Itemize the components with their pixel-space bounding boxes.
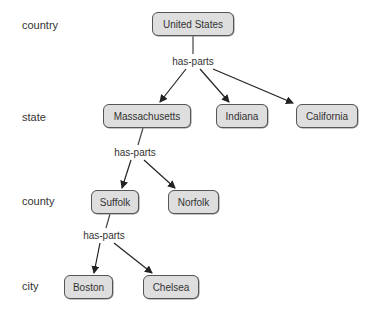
edges-layer [0, 0, 374, 312]
node-united-states: United States [152, 12, 234, 36]
relation-label-us: has-parts [171, 56, 215, 67]
node-norfolk: Norfolk [168, 190, 219, 214]
edge-arrow [122, 160, 131, 188]
relation-label-suffolk: has-parts [82, 230, 126, 241]
level-label-country: country [22, 19, 58, 31]
node-indiana: Indiana [216, 104, 268, 128]
level-label-city: city [22, 280, 39, 292]
node-suffolk: Suffolk [91, 190, 139, 214]
node-california: California [296, 104, 358, 128]
node-boston: Boston [64, 275, 113, 299]
edge-arrow [160, 69, 186, 102]
edge-line [138, 128, 143, 145]
level-label-state: state [22, 111, 46, 123]
level-label-county: county [22, 195, 54, 207]
edge-line [106, 214, 110, 228]
node-chelsea: Chelsea [143, 275, 199, 299]
node-massachusetts: Massachusetts [103, 104, 191, 128]
relation-label-massachusetts: has-parts [113, 147, 157, 158]
edge-arrow [114, 243, 152, 273]
edge-arrow [94, 243, 100, 273]
edge-arrow [144, 160, 175, 188]
